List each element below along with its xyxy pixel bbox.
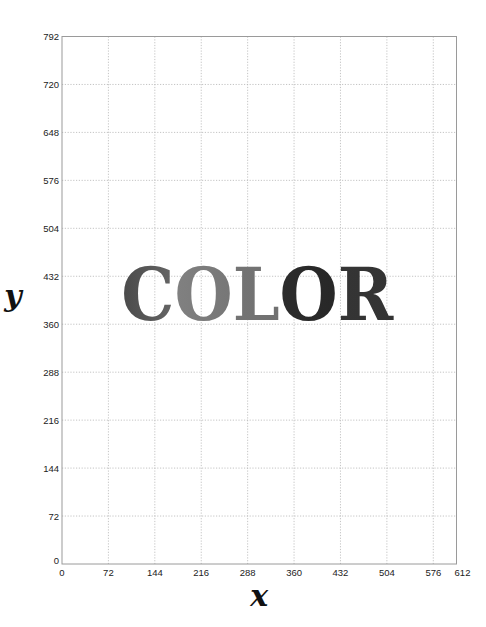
x-axis-ticks: 072144216288360432504576612 <box>59 567 470 578</box>
y-tick-label: 648 <box>43 127 59 138</box>
y-tick-label: 576 <box>43 175 59 186</box>
x-tick-label: 576 <box>425 567 441 578</box>
y-tick-label: 72 <box>48 511 59 522</box>
x-tick-label: 216 <box>193 567 209 578</box>
y-tick-label: 144 <box>43 463 59 474</box>
x-tick-label: 72 <box>103 567 114 578</box>
y-tick-label: 432 <box>43 271 59 282</box>
y-tick-label: 288 <box>43 367 59 378</box>
color-word-annotation: COLOR <box>121 252 394 337</box>
x-tick-label: 360 <box>286 567 302 578</box>
y-tick-label: 504 <box>43 223 59 234</box>
letter-r: R <box>338 252 395 337</box>
y-axis-label: y <box>3 278 24 313</box>
x-tick-label: 504 <box>379 567 395 578</box>
letter-l: L <box>233 252 280 337</box>
letter-c: C <box>121 252 174 337</box>
color-word: COLOR <box>121 252 394 337</box>
chart-canvas: 072144216288360432504576612 072144216288… <box>0 0 486 627</box>
y-tick-label: 792 <box>43 31 59 42</box>
x-tick-label: 144 <box>147 567 163 578</box>
x-tick-label: 288 <box>240 567 256 578</box>
y-tick-label: 360 <box>43 319 59 330</box>
letter-o: O <box>174 252 232 337</box>
y-tick-label: 216 <box>43 415 59 426</box>
y-tick-label: 720 <box>43 79 59 90</box>
letter-o: O <box>280 252 338 337</box>
x-tick-label: 0 <box>59 567 64 578</box>
x-axis-label: x <box>249 578 269 613</box>
y-axis-ticks: 072144216288360432504576648720792 <box>43 31 59 566</box>
x-tick-label: 432 <box>333 567 349 578</box>
y-tick-label: 0 <box>54 555 59 566</box>
x-tick-label: 612 <box>455 567 471 578</box>
